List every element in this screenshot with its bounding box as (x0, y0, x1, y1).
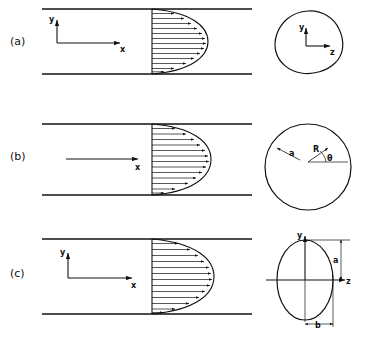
panel-b-label: (b) (10, 150, 26, 163)
panel-a-side-view: y x (42, 9, 252, 74)
local-radius-label: R (313, 145, 319, 154)
x-axis-label: x (131, 281, 137, 290)
panel-b-axes: x (66, 159, 141, 172)
panel-c-cross-section: y z a b (266, 231, 351, 330)
panel-a-axes: y x (49, 15, 126, 54)
panel-b-side-view: x (42, 124, 252, 195)
circular-cross-section-outline (265, 124, 351, 210)
panel-c-label: (c) (10, 267, 25, 280)
velocity-profile-curve (152, 124, 211, 195)
panel-b: (b) x (10, 124, 351, 210)
y-axis-label: y (49, 15, 55, 24)
y-axis-label: y (299, 23, 305, 32)
x-axis-label: x (120, 45, 126, 54)
velocity-arrows (152, 129, 209, 194)
flow-profile-figure: (a) y x (0, 0, 375, 343)
x-axis-label: x (135, 163, 141, 172)
y-axis-label: y (60, 248, 66, 257)
panel-a: (a) y x (10, 9, 343, 74)
arbitrary-cross-section-outline (275, 11, 343, 74)
velocity-profile-curve (152, 239, 214, 314)
y-axis-label: y (297, 231, 303, 240)
panel-c-side-view: y x (42, 239, 252, 314)
panel-c-axes: y x (60, 248, 137, 290)
velocity-arrows (152, 244, 212, 313)
panel-a-label: (a) (10, 35, 25, 48)
polar-angle-label: θ (327, 154, 333, 163)
semi-minor-axis-label: b (315, 321, 321, 330)
panel-b-cross-section: a R θ (265, 124, 351, 210)
z-axis-label: z (330, 48, 335, 57)
panel-a-cross-section: y z (275, 11, 343, 74)
outer-radius-label: a (289, 149, 294, 158)
semi-major-axis-label: a (333, 256, 338, 265)
z-axis-label: z (346, 277, 351, 286)
velocity-arrows (152, 14, 206, 72)
panel-c: (c) y x (10, 231, 351, 330)
